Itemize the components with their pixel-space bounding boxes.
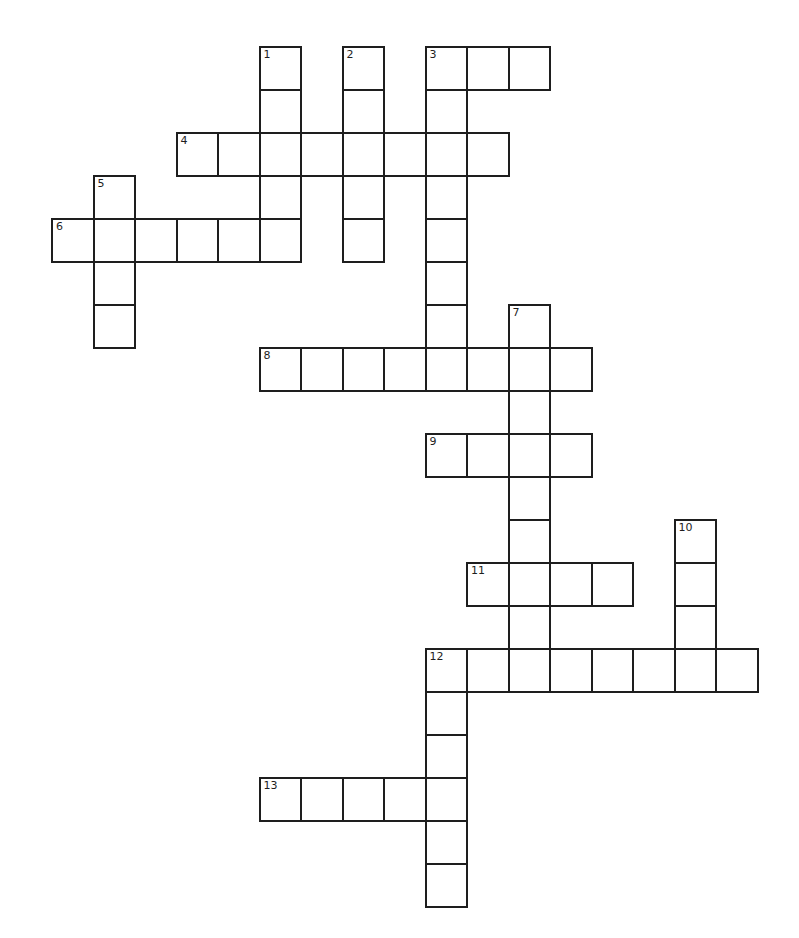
crossword-cell[interactable]	[342, 347, 386, 392]
crossword-cell[interactable]	[259, 132, 303, 177]
crossword-cell[interactable]	[217, 218, 261, 263]
crossword-cell[interactable]	[549, 433, 593, 478]
crossword-cell[interactable]	[342, 175, 386, 220]
crossword-grid: 12345678910111213	[0, 0, 799, 938]
crossword-cell[interactable]	[466, 46, 510, 91]
crossword-cell[interactable]	[342, 89, 386, 134]
crossword-cell[interactable]	[508, 648, 552, 693]
crossword-cell[interactable]: 4	[176, 132, 220, 177]
clue-number: 3	[430, 49, 437, 61]
crossword-cell[interactable]	[508, 347, 552, 392]
crossword-cell[interactable]	[549, 648, 593, 693]
crossword-cell[interactable]	[217, 132, 261, 177]
crossword-cell[interactable]: 12	[425, 648, 469, 693]
crossword-cell[interactable]	[93, 261, 137, 306]
crossword-cell[interactable]	[549, 347, 593, 392]
crossword-cell[interactable]	[383, 347, 427, 392]
crossword-cell[interactable]: 10	[674, 519, 718, 564]
clue-number: 1	[264, 49, 271, 61]
crossword-cell[interactable]	[425, 691, 469, 736]
crossword-cell[interactable]	[508, 519, 552, 564]
crossword-cell[interactable]	[466, 648, 510, 693]
crossword-cell[interactable]	[425, 777, 469, 822]
crossword-cell[interactable]	[508, 562, 552, 607]
crossword-cell[interactable]	[176, 218, 220, 263]
crossword-cell[interactable]	[425, 734, 469, 779]
crossword-cell[interactable]	[425, 820, 469, 865]
crossword-cell[interactable]	[591, 648, 635, 693]
crossword-cell[interactable]	[508, 605, 552, 650]
crossword-cell[interactable]	[425, 132, 469, 177]
crossword-cell[interactable]	[591, 562, 635, 607]
clue-number: 7	[513, 307, 520, 319]
crossword-cell[interactable]	[425, 304, 469, 349]
crossword-cell[interactable]	[715, 648, 759, 693]
clue-number: 6	[56, 221, 63, 233]
crossword-cell[interactable]	[674, 605, 718, 650]
crossword-cell[interactable]: 6	[51, 218, 95, 263]
crossword-cell[interactable]	[466, 433, 510, 478]
clue-number: 13	[264, 780, 278, 792]
crossword-cell[interactable]	[466, 132, 510, 177]
crossword-cell[interactable]	[674, 562, 718, 607]
crossword-cell[interactable]	[508, 390, 552, 435]
crossword-cell[interactable]	[383, 777, 427, 822]
crossword-cell[interactable]	[425, 89, 469, 134]
crossword-cell[interactable]	[425, 863, 469, 908]
crossword-cell[interactable]	[300, 347, 344, 392]
crossword-cell[interactable]	[508, 476, 552, 521]
crossword-cell[interactable]	[342, 132, 386, 177]
crossword-cell[interactable]	[632, 648, 676, 693]
clue-number: 12	[430, 651, 444, 663]
crossword-cell[interactable]	[259, 175, 303, 220]
crossword-cell[interactable]	[425, 218, 469, 263]
crossword-cell[interactable]	[259, 89, 303, 134]
clue-number: 9	[430, 436, 437, 448]
crossword-cell[interactable]	[466, 347, 510, 392]
crossword-cell[interactable]	[342, 218, 386, 263]
crossword-cell[interactable]	[425, 347, 469, 392]
clue-number: 2	[347, 49, 354, 61]
clue-number: 5	[98, 178, 105, 190]
crossword-cell[interactable]	[134, 218, 178, 263]
crossword-cell[interactable]	[508, 46, 552, 91]
crossword-cell[interactable]: 3	[425, 46, 469, 91]
crossword-cell[interactable]: 5	[93, 175, 137, 220]
crossword-cell[interactable]	[300, 132, 344, 177]
clue-number: 11	[471, 565, 485, 577]
crossword-cell[interactable]	[93, 304, 137, 349]
clue-number: 10	[679, 522, 693, 534]
crossword-cell[interactable]: 8	[259, 347, 303, 392]
crossword-cell[interactable]	[425, 261, 469, 306]
clue-number: 8	[264, 350, 271, 362]
crossword-cell[interactable]	[674, 648, 718, 693]
crossword-cell[interactable]: 11	[466, 562, 510, 607]
crossword-cell[interactable]	[93, 218, 137, 263]
crossword-cell[interactable]: 13	[259, 777, 303, 822]
crossword-cell[interactable]	[549, 562, 593, 607]
crossword-cell[interactable]	[425, 175, 469, 220]
crossword-cell[interactable]	[342, 777, 386, 822]
clue-number: 4	[181, 135, 188, 147]
crossword-cell[interactable]	[383, 132, 427, 177]
crossword-cell[interactable]	[259, 218, 303, 263]
crossword-cell[interactable]	[508, 433, 552, 478]
crossword-cell[interactable]: 7	[508, 304, 552, 349]
crossword-cell[interactable]: 2	[342, 46, 386, 91]
crossword-cell[interactable]: 9	[425, 433, 469, 478]
crossword-cell[interactable]: 1	[259, 46, 303, 91]
crossword-cell[interactable]	[300, 777, 344, 822]
